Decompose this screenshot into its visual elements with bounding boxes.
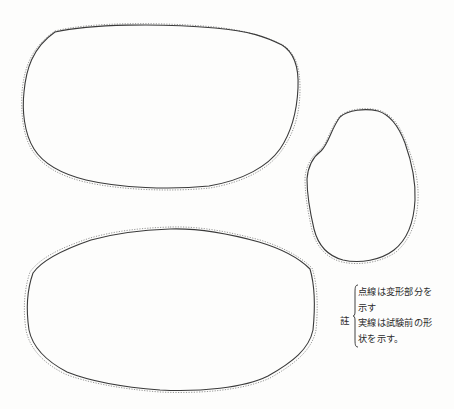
deformed-outline-dotted bbox=[305, 109, 418, 264]
original-outline-solid bbox=[307, 110, 415, 262]
note-line: 実線は試験前の形 bbox=[358, 315, 432, 331]
right-specimen-outline bbox=[305, 109, 418, 264]
note-text: 点線は変形部分を 示す 実線は試験前の形 状を示す。 bbox=[358, 284, 432, 346]
legend-note: 註 点線は変形部分を 示す 実線は試験前の形 状を示す。 bbox=[340, 284, 450, 364]
note-line: 点線は変形部分を bbox=[358, 284, 432, 300]
deformed-outline-dotted bbox=[24, 227, 317, 393]
deformed-outline-dotted bbox=[22, 24, 300, 190]
note-label: 註 bbox=[340, 313, 350, 327]
note-line: 示す bbox=[358, 300, 432, 316]
lower-left-specimen-outline bbox=[24, 227, 317, 393]
upper-left-specimen-outline bbox=[22, 24, 300, 190]
note-line: 状を示す。 bbox=[358, 331, 432, 347]
original-outline-solid bbox=[27, 229, 314, 391]
original-outline-solid bbox=[23, 25, 298, 188]
figure-canvas: 註 点線は変形部分を 示す 実線は試験前の形 状を示す。 bbox=[0, 0, 454, 409]
